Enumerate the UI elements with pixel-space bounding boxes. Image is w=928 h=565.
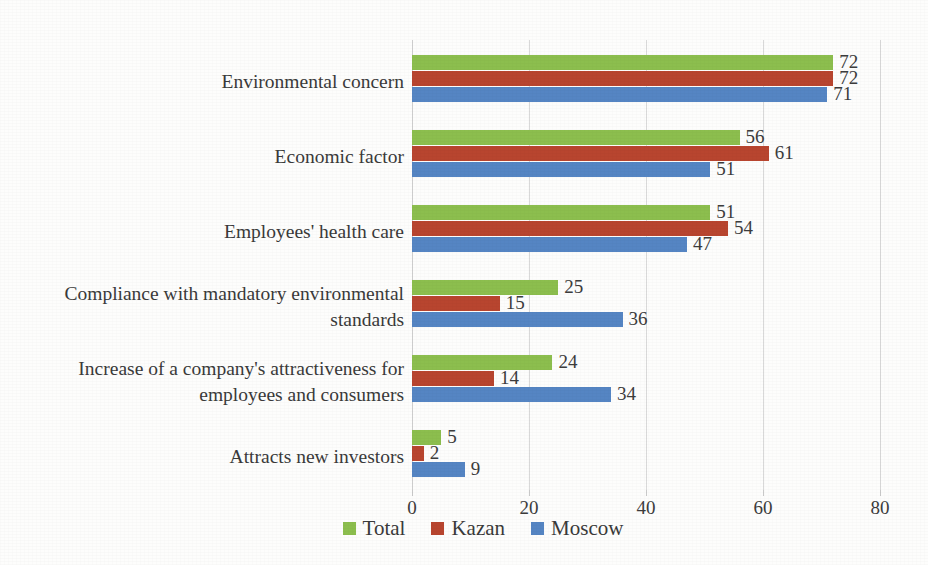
bar-moscow[interactable] [412,162,710,177]
legend-label: Total [363,518,406,539]
bar-value-label: 34 [617,386,636,401]
bar-total[interactable] [412,130,740,145]
bar-group: 727271 [412,44,880,119]
bar-value-label: 56 [746,129,765,144]
x-tick-label: 20 [520,497,539,519]
bar-value-label: 24 [558,354,577,369]
bar-kazan[interactable] [412,71,833,86]
x-tick-label: 0 [407,497,417,519]
legend-swatch-icon [531,522,544,535]
legend-item-kazan[interactable]: Kazan [431,518,505,539]
bar-value-label: 14 [500,370,519,385]
bar-value-label: 25 [564,279,583,294]
bars-wrap: 566151 [412,130,880,183]
bar-total[interactable] [412,280,558,295]
bar-kazan[interactable] [412,371,494,386]
bar-value-label: 47 [693,236,712,251]
x-tick [880,490,881,496]
bar-group: 515447 [412,194,880,269]
bar-total[interactable] [412,55,833,70]
bar-moscow[interactable] [412,87,827,102]
bar-kazan[interactable] [412,146,769,161]
bars-wrap: 529 [412,430,880,483]
bar-moscow[interactable] [412,462,465,477]
chart-page: Environmental concernEconomic factorEmpl… [0,0,928,565]
chart-legend: TotalKazanMoscow [0,518,928,539]
x-tick [646,490,647,496]
bar-group: 251536 [412,269,880,344]
x-tick [529,490,530,496]
bar-moscow[interactable] [412,237,687,252]
legend-label: Moscow [551,518,623,539]
x-tick [763,490,764,496]
category-label: Compliance with mandatory environmental … [4,281,404,333]
bar-total[interactable] [412,355,552,370]
category-label: Environmental concern [4,69,404,95]
bar-value-label: 54 [734,220,753,235]
bar-value-label: 51 [716,204,735,219]
bar-kazan[interactable] [412,446,424,461]
legend-swatch-icon [343,522,356,535]
bar-value-label: 15 [506,295,525,310]
bar-value-label: 9 [471,461,481,476]
category-label: Increase of a company's attractiveness f… [4,356,404,408]
bars-wrap: 241434 [412,355,880,408]
bar-group: 566151 [412,119,880,194]
bar-kazan[interactable] [412,221,728,236]
bar-value-label: 71 [833,86,852,101]
x-tick-label: 80 [871,497,890,519]
bar-value-label: 5 [447,429,457,444]
bar-group: 241434 [412,344,880,419]
category-label: Economic factor [4,144,404,170]
legend-label: Kazan [451,518,505,539]
category-label: Attracts new investors [4,444,404,470]
plot-area: 727271566151515447251536241434529 [412,40,880,490]
x-tick-label: 40 [637,497,656,519]
category-label: Employees' health care [4,219,404,245]
legend-swatch-icon [431,522,444,535]
bars-wrap: 251536 [412,280,880,333]
bar-kazan[interactable] [412,296,500,311]
bars-wrap: 727271 [412,55,880,108]
bar-group: 529 [412,419,880,494]
bar-value-label: 36 [629,311,648,326]
bar-value-label: 2 [430,445,440,460]
legend-item-total[interactable]: Total [343,518,406,539]
bar-moscow[interactable] [412,312,623,327]
x-tick-label: 60 [754,497,773,519]
bar-value-label: 61 [775,145,794,160]
bars-wrap: 515447 [412,205,880,258]
bar-value-label: 51 [716,161,735,176]
bar-total[interactable] [412,205,710,220]
x-tick [412,490,413,496]
gridline-80 [880,40,881,490]
bar-moscow[interactable] [412,387,611,402]
legend-item-moscow[interactable]: Moscow [531,518,623,539]
